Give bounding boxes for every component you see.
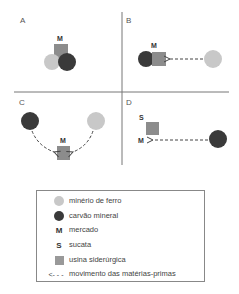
dark-circle-icon [53,210,65,222]
market-label: M [138,137,144,144]
iron-ore-circle [87,112,105,130]
raw-material-arrow-ore [73,131,93,152]
iron-ore-circle [204,50,222,68]
light-circle-icon [53,195,65,207]
legend-label: movimento das matérias-primas [69,268,176,280]
market-letter-icon: M [53,224,65,236]
legend-label: sucata [69,239,91,251]
scrap-label: S [139,114,144,121]
legend-label: minério de ferro [69,195,122,207]
dashed-arrow-icon: <- - - [45,268,67,280]
coal-circle [58,53,76,71]
gray-square-icon [53,254,65,266]
steel-mill-square [152,52,166,66]
coal-circle [138,51,154,67]
legend: minério de ferro carvão mineral M mercad… [36,190,205,282]
market-label: M [57,35,63,42]
steel-mill-square [57,146,70,160]
iron-ore-circle [44,54,60,70]
coal-circle [209,130,227,148]
panel-d-label: D [126,98,132,107]
panel-d: D S M [126,98,227,148]
legend-label: carvão mineral [69,210,118,222]
panel-a-label: A [20,16,26,25]
panel-c-label: C [19,98,25,107]
panel-a: A M [20,16,76,71]
market-label: M [151,42,157,49]
coal-circle [21,112,39,130]
panel-b: B M [126,16,222,68]
scrap-letter-icon: S [53,239,65,251]
location-diagram: A M B M C M D S M [0,0,239,190]
raw-material-arrow-coal [32,131,54,152]
steel-mill-square [146,122,159,135]
legend-label: usina siderúrgica [69,254,126,266]
panel-b-label: B [126,16,131,25]
panel-c: C M [19,98,105,160]
legend-label: mercado [69,224,98,236]
market-label: M [60,137,66,144]
